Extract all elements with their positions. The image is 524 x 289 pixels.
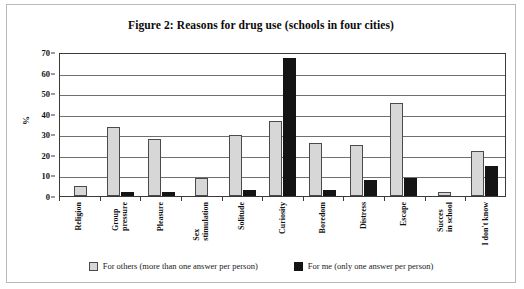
y-tick-mark bbox=[51, 53, 55, 54]
x-label-cell: Solitude bbox=[222, 202, 263, 260]
bar[interactable] bbox=[107, 127, 120, 196]
bar[interactable] bbox=[350, 145, 363, 196]
x-label-cell: Succesin school bbox=[425, 202, 466, 260]
bar[interactable] bbox=[323, 190, 336, 196]
y-tick-label: 60 bbox=[42, 69, 51, 79]
bar-group bbox=[60, 54, 100, 196]
bar[interactable] bbox=[195, 178, 208, 196]
legend-label: For me (only one answer per person) bbox=[308, 261, 434, 271]
y-tick-mark bbox=[51, 176, 55, 177]
x-axis-label: Escape bbox=[400, 202, 409, 226]
x-axis-label: I don't know bbox=[481, 202, 490, 246]
x-tick-mark bbox=[100, 197, 141, 201]
bar-group bbox=[343, 54, 383, 196]
bar[interactable] bbox=[309, 143, 322, 196]
bar-group bbox=[465, 54, 505, 196]
x-tick-mark bbox=[140, 197, 181, 201]
x-tick-mark bbox=[465, 197, 506, 201]
x-tick-mark bbox=[384, 197, 425, 201]
x-label-cell: Distress bbox=[343, 202, 384, 260]
y-tick-label: 30 bbox=[42, 130, 51, 140]
x-label-cell: Religion bbox=[59, 202, 100, 260]
bar-group bbox=[384, 54, 424, 196]
x-axis-label: Sexstimulation bbox=[193, 202, 210, 241]
bar-group bbox=[181, 54, 221, 196]
x-label-cell: I don't know bbox=[465, 202, 506, 260]
legend-entry[interactable]: For me (only one answer per person) bbox=[294, 261, 434, 271]
legend-label: For others (more than one answer per per… bbox=[103, 261, 258, 271]
figure-frame: Figure 2: Reasons for drug use (schools … bbox=[6, 4, 516, 283]
x-label-cell: Pleasure bbox=[140, 202, 181, 260]
bar[interactable] bbox=[404, 178, 417, 196]
x-label-cell: Sexstimulation bbox=[181, 202, 222, 260]
bar[interactable] bbox=[148, 139, 161, 196]
x-axis-label: Distress bbox=[360, 202, 369, 229]
y-tick-label: 50 bbox=[42, 89, 51, 99]
x-axis-label: Succesin school bbox=[437, 202, 454, 232]
x-tick-mark bbox=[303, 197, 344, 201]
y-tick-label: 70 bbox=[42, 48, 51, 58]
x-label-cell: Escape bbox=[384, 202, 425, 260]
chart-title: Figure 2: Reasons for drug use (schools … bbox=[7, 19, 515, 31]
bar[interactable] bbox=[485, 166, 498, 196]
y-tick-mark bbox=[51, 197, 55, 198]
x-axis-labels: ReligionGrouppressurePleasureSexstimulat… bbox=[59, 202, 506, 260]
y-tick-mark bbox=[51, 73, 55, 74]
bar[interactable] bbox=[364, 180, 377, 196]
x-tick-mark bbox=[222, 197, 263, 201]
y-axis: 010203040506070 bbox=[17, 53, 55, 197]
x-tick-mark bbox=[181, 197, 222, 201]
y-tick-label: 10 bbox=[42, 171, 51, 181]
x-axis-label: Curiosity bbox=[278, 202, 287, 234]
legend-entry[interactable]: For others (more than one answer per per… bbox=[89, 261, 258, 271]
chart-legend: For others (more than one answer per per… bbox=[7, 261, 515, 271]
x-label-cell: Boredom bbox=[303, 202, 344, 260]
x-label-cell: Grouppressure bbox=[100, 202, 141, 260]
bar[interactable] bbox=[390, 103, 403, 196]
legend-swatch bbox=[294, 262, 303, 271]
y-tick-mark bbox=[51, 155, 55, 156]
bar[interactable] bbox=[269, 121, 282, 196]
x-axis-label: Pleasure bbox=[156, 202, 165, 231]
bar-group bbox=[424, 54, 464, 196]
x-tick-mark bbox=[59, 197, 100, 201]
x-axis-label: Religion bbox=[75, 202, 84, 230]
bar[interactable] bbox=[74, 186, 87, 196]
y-tick-label: 0 bbox=[46, 192, 50, 202]
x-tick-mark bbox=[262, 197, 303, 201]
bar[interactable] bbox=[229, 135, 242, 196]
bar[interactable] bbox=[121, 192, 134, 196]
x-axis-tick-marks bbox=[59, 197, 506, 201]
x-axis-label: Boredom bbox=[319, 202, 328, 233]
x-axis-label: Grouppressure bbox=[111, 202, 128, 231]
bar-group bbox=[303, 54, 343, 196]
y-tick-label: 20 bbox=[42, 151, 51, 161]
bar[interactable] bbox=[438, 192, 451, 196]
bar[interactable] bbox=[243, 190, 256, 196]
bar-group bbox=[100, 54, 140, 196]
bar-group bbox=[262, 54, 302, 196]
x-label-cell: Curiosity bbox=[262, 202, 303, 260]
plot-area bbox=[59, 53, 506, 197]
x-tick-mark bbox=[425, 197, 466, 201]
y-tick-label: 40 bbox=[42, 110, 51, 120]
y-tick-mark bbox=[51, 114, 55, 115]
bar[interactable] bbox=[283, 58, 296, 196]
legend-swatch bbox=[89, 262, 98, 271]
bars-layer bbox=[60, 54, 505, 196]
y-tick-mark bbox=[51, 94, 55, 95]
x-tick-mark bbox=[343, 197, 384, 201]
y-tick-mark bbox=[51, 135, 55, 136]
x-axis-label: Solitude bbox=[238, 202, 247, 230]
bar[interactable] bbox=[162, 192, 175, 196]
bar-group bbox=[141, 54, 181, 196]
bar[interactable] bbox=[471, 151, 484, 196]
bar-group bbox=[222, 54, 262, 196]
